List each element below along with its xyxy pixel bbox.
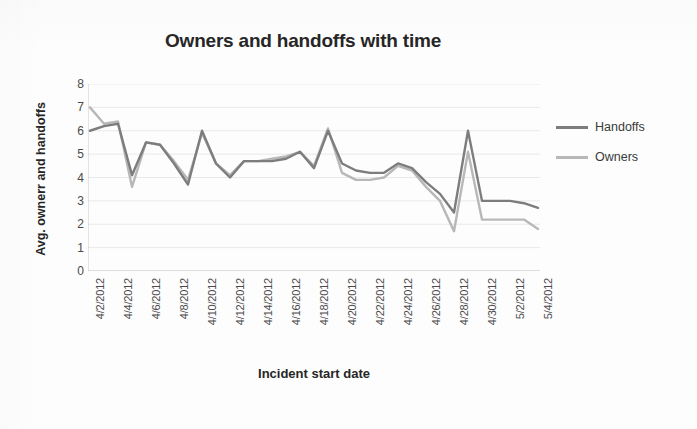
- legend-item-handoffs[interactable]: Handoffs: [556, 112, 686, 142]
- x-tick-label: 4/6/2012: [150, 278, 162, 319]
- x-tick-label: 4/26/2012: [430, 278, 442, 325]
- y-tick-label: 2: [58, 218, 84, 230]
- x-tick-label: 4/22/2012: [374, 278, 386, 325]
- x-axis-tick-labels: 4/2/20124/4/20124/6/20124/8/20124/10/201…: [88, 278, 540, 364]
- chart-container: Owners and handoffs with time Avg. owner…: [0, 0, 697, 429]
- y-tick-label: 7: [58, 101, 84, 113]
- x-tick-label: 4/10/2012: [206, 278, 218, 325]
- x-tick-label: 4/24/2012: [402, 278, 414, 325]
- x-tick-label: 4/16/2012: [290, 278, 302, 325]
- x-tick-label: 5/2/2012: [514, 278, 526, 319]
- x-axis-title: Incident start date: [88, 366, 540, 381]
- series-canvas: [88, 84, 540, 271]
- y-tick-label: 3: [58, 195, 84, 207]
- x-tick-label: 4/30/2012: [486, 278, 498, 325]
- legend-item-owners[interactable]: Owners: [556, 142, 686, 172]
- x-tick-label: 4/28/2012: [458, 278, 470, 325]
- x-tick-label: 4/20/2012: [346, 278, 358, 325]
- x-tick-label: 4/14/2012: [262, 278, 274, 325]
- y-tick-label: 5: [58, 148, 84, 160]
- legend-label: Handoffs: [595, 120, 645, 134]
- y-tick-label: 4: [58, 172, 84, 184]
- y-tick-label: 0: [58, 265, 84, 277]
- legend-label: Owners: [595, 150, 638, 164]
- y-tick-label: 1: [58, 242, 84, 254]
- y-tick-label: 6: [58, 125, 84, 137]
- x-tick-label: 5/4/2012: [542, 278, 554, 319]
- legend-swatch-handoffs: [556, 126, 588, 129]
- x-tick-label: 4/2/2012: [94, 278, 106, 319]
- x-tick-label: 4/8/2012: [178, 278, 190, 319]
- chart-title: Owners and handoffs with time: [88, 30, 518, 52]
- x-tick-label: 4/12/2012: [234, 278, 246, 325]
- x-tick-label: 4/4/2012: [122, 278, 134, 319]
- x-tick-label: 4/18/2012: [318, 278, 330, 325]
- y-axis-tick-labels: 876543210: [56, 84, 84, 271]
- chart-legend: HandoffsOwners: [556, 112, 686, 172]
- legend-swatch-owners: [556, 156, 588, 159]
- plot-area: [88, 84, 540, 271]
- y-tick-label: 8: [58, 78, 84, 90]
- y-axis-title: Avg. ownerr and handoffs: [34, 77, 48, 282]
